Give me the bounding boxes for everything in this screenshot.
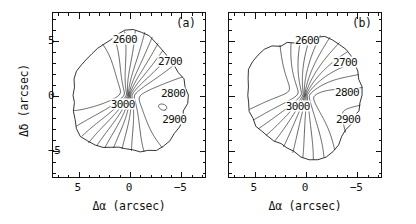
- tick-mark: [120, 175, 121, 179]
- tick-mark: [192, 175, 193, 179]
- tick-mark: [379, 85, 383, 86]
- contour-label-2600: 2600: [295, 34, 320, 45]
- tick-mark: [255, 172, 256, 179]
- tick-mark: [228, 162, 232, 163]
- axis-tick-label: −5: [350, 182, 363, 193]
- tick-mark: [379, 162, 383, 163]
- tick-mark: [368, 175, 369, 179]
- tick-mark: [203, 74, 207, 75]
- tick-mark: [316, 175, 317, 179]
- velocity-field-figure: (a) 2600 2700 2800 2900 3000 (b) 2600 27…: [0, 0, 416, 224]
- tick-mark: [52, 173, 56, 174]
- tick-mark: [52, 140, 56, 141]
- tick-mark: [52, 118, 56, 119]
- tick-mark: [202, 12, 203, 16]
- contour-label-2800: 2800: [335, 86, 360, 97]
- tick-mark: [203, 85, 207, 86]
- tick-mark: [52, 162, 56, 163]
- tick-mark: [379, 140, 383, 141]
- tick-mark: [285, 12, 286, 16]
- tick-mark: [203, 52, 207, 53]
- tick-mark: [379, 107, 383, 108]
- tick-mark: [296, 175, 297, 179]
- tick-mark: [368, 12, 369, 16]
- tick-mark: [228, 85, 232, 86]
- tick-mark: [306, 12, 307, 19]
- tick-mark: [120, 12, 121, 16]
- tick-mark: [228, 140, 232, 141]
- tick-mark: [52, 74, 56, 75]
- tick-mark: [228, 74, 232, 75]
- tick-mark: [52, 85, 56, 86]
- tick-mark: [379, 118, 383, 119]
- tick-mark: [52, 107, 56, 108]
- tick-mark: [203, 19, 207, 20]
- tick-mark: [228, 63, 232, 64]
- tick-mark: [192, 12, 193, 16]
- tick-mark: [285, 175, 286, 179]
- contour-level-2700: [266, 38, 310, 136]
- contour-label-2700: 2700: [332, 56, 357, 67]
- tick-mark: [52, 63, 56, 64]
- tick-mark: [378, 12, 379, 16]
- tick-mark: [151, 175, 152, 179]
- tick-mark: [203, 140, 207, 141]
- contour-level-2550: [250, 45, 290, 109]
- tick-mark: [234, 175, 235, 179]
- tick-mark: [68, 12, 69, 16]
- tick-mark: [379, 129, 383, 130]
- tick-mark: [357, 172, 358, 179]
- tick-mark: [203, 173, 207, 174]
- axis-tick-label: 0: [126, 182, 132, 193]
- axis-tick-label: −5: [174, 182, 187, 193]
- tick-mark: [79, 12, 80, 19]
- tick-mark: [275, 12, 276, 16]
- tick-mark: [200, 151, 207, 152]
- tick-mark: [255, 12, 256, 19]
- tick-mark: [376, 96, 383, 97]
- tick-mark: [203, 162, 207, 163]
- tick-mark: [327, 175, 328, 179]
- tick-mark: [89, 12, 90, 16]
- tick-mark: [68, 175, 69, 179]
- tick-mark: [109, 12, 110, 16]
- tick-mark: [228, 30, 232, 31]
- tick-mark: [306, 172, 307, 179]
- tick-mark: [109, 175, 110, 179]
- x-axis-title: Δα (arcsec): [93, 200, 166, 212]
- tick-mark: [161, 12, 162, 16]
- tick-mark: [200, 96, 207, 97]
- tick-mark: [376, 151, 383, 152]
- tick-mark: [379, 63, 383, 64]
- axis-tick-label: 5: [74, 182, 80, 193]
- tick-mark: [171, 175, 172, 179]
- tick-mark: [89, 175, 90, 179]
- tick-mark: [316, 12, 317, 16]
- tick-mark: [228, 19, 232, 20]
- tick-mark: [52, 19, 56, 20]
- tick-mark: [203, 30, 207, 31]
- tick-mark: [203, 107, 207, 108]
- contour-label-3000: 3000: [285, 101, 310, 112]
- tick-mark: [151, 12, 152, 16]
- tick-mark: [379, 30, 383, 31]
- x-axis-title: Δα (arcsec): [269, 200, 342, 212]
- tick-mark: [228, 107, 232, 108]
- tick-mark: [379, 173, 383, 174]
- panel-b-label: (b): [352, 17, 372, 29]
- y-axis-title: Δδ (arcsec): [18, 64, 30, 137]
- contour-level-2650: [259, 41, 301, 129]
- tick-mark: [202, 175, 203, 179]
- tick-mark: [376, 41, 383, 42]
- tick-mark: [161, 175, 162, 179]
- tick-mark: [52, 52, 56, 53]
- tick-mark: [200, 41, 207, 42]
- tick-mark: [130, 12, 131, 19]
- tick-mark: [228, 151, 235, 152]
- contour-label-2900: 2900: [336, 114, 361, 125]
- tick-mark: [130, 172, 131, 179]
- tick-mark: [58, 12, 59, 16]
- tick-mark: [140, 175, 141, 179]
- tick-mark: [265, 12, 266, 16]
- tick-mark: [171, 12, 172, 16]
